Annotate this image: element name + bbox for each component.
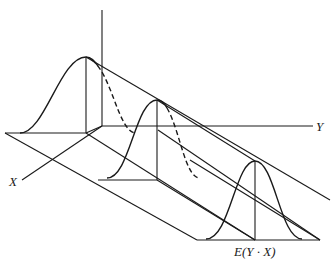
x-axis-label: X bbox=[8, 174, 18, 189]
y-axis-label: Y bbox=[316, 119, 325, 134]
x-axis bbox=[22, 126, 102, 180]
peak-line bbox=[86, 57, 330, 200]
middle-normal-curve bbox=[107, 100, 167, 178]
middle-slant-line bbox=[157, 180, 255, 240]
regression-label: E(Y · X) bbox=[233, 244, 276, 259]
regression-diagram: Y X E(Y · X) bbox=[0, 0, 331, 266]
peak-line-front bbox=[157, 100, 255, 161]
back-curve-dashed-tail bbox=[92, 60, 135, 133]
middle-curve-dashed-tail bbox=[167, 108, 200, 178]
